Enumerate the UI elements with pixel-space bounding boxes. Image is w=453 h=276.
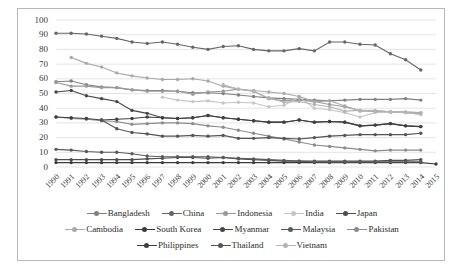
data-point bbox=[222, 126, 225, 129]
legend-label: Cambodia bbox=[86, 224, 123, 234]
data-point bbox=[313, 136, 316, 139]
data-point bbox=[176, 117, 179, 120]
y-tick-label: 50 bbox=[20, 89, 48, 98]
data-point bbox=[146, 76, 149, 79]
legend-label: Indonesia bbox=[237, 208, 272, 218]
data-point bbox=[85, 150, 88, 153]
legend-item-china[interactable]: China bbox=[162, 208, 205, 218]
data-point bbox=[161, 134, 164, 137]
data-point bbox=[267, 120, 270, 123]
data-point bbox=[70, 89, 73, 92]
data-point bbox=[374, 123, 377, 126]
legend-marker-icon bbox=[87, 209, 107, 218]
series-line bbox=[56, 117, 421, 151]
data-point bbox=[85, 161, 88, 164]
legend-item-bangladesh[interactable]: Bangladesh bbox=[87, 208, 150, 218]
legend-item-myanmar[interactable]: Myanmar bbox=[213, 224, 269, 234]
legend-item-philippines[interactable]: Philippines bbox=[137, 240, 199, 250]
data-point bbox=[191, 122, 194, 125]
legend-item-japan[interactable]: Japan bbox=[336, 208, 378, 218]
data-point bbox=[146, 112, 149, 115]
data-point bbox=[328, 99, 331, 102]
legend-marker-icon bbox=[284, 209, 304, 218]
data-point bbox=[191, 161, 194, 164]
data-point bbox=[54, 90, 57, 93]
data-point bbox=[130, 131, 133, 134]
data-point bbox=[328, 108, 331, 111]
data-point bbox=[70, 158, 73, 161]
data-point bbox=[267, 90, 270, 93]
legend-item-india[interactable]: India bbox=[284, 208, 324, 218]
data-point bbox=[404, 58, 407, 61]
data-point bbox=[343, 40, 346, 43]
data-point bbox=[115, 37, 118, 40]
legend-marker-icon bbox=[137, 241, 157, 250]
data-point bbox=[191, 116, 194, 119]
series-line bbox=[71, 57, 421, 112]
data-point bbox=[70, 116, 73, 119]
data-point bbox=[313, 160, 316, 163]
legend-item-pakistan[interactable]: Pakistan bbox=[347, 224, 399, 234]
data-point bbox=[206, 99, 209, 102]
data-point bbox=[252, 101, 255, 104]
data-point bbox=[237, 161, 240, 164]
legend-item-thailand[interactable]: Thailand bbox=[211, 240, 264, 250]
data-point bbox=[130, 161, 133, 164]
legend-item-cambodia[interactable]: Cambodia bbox=[65, 224, 123, 234]
data-point bbox=[313, 49, 316, 52]
data-point bbox=[298, 95, 301, 98]
data-point bbox=[282, 101, 285, 104]
data-point bbox=[161, 78, 164, 81]
data-point bbox=[191, 93, 194, 96]
legend-row: CambodiaSouth KoreaMyanmarMalaysiaPakist… bbox=[18, 221, 446, 237]
data-point bbox=[419, 112, 422, 115]
data-point bbox=[374, 149, 377, 152]
data-point bbox=[404, 133, 407, 136]
series-line bbox=[56, 82, 421, 114]
legend-label: Myanmar bbox=[234, 224, 269, 234]
y-tick-label: 70 bbox=[20, 60, 48, 69]
y-tick-label: 90 bbox=[20, 30, 48, 39]
data-point bbox=[389, 148, 392, 151]
data-point bbox=[176, 161, 179, 164]
data-point bbox=[100, 161, 103, 164]
data-point bbox=[237, 87, 240, 90]
legend-item-indonesia[interactable]: Indonesia bbox=[216, 208, 272, 218]
legend-marker-icon bbox=[213, 225, 233, 234]
chart-legend: BangladeshChinaIndonesiaIndiaJapanCambod… bbox=[18, 205, 446, 253]
legend-item-south-korea[interactable]: South Korea bbox=[135, 224, 201, 234]
data-point bbox=[389, 160, 392, 163]
data-point bbox=[343, 160, 346, 163]
data-point bbox=[176, 78, 179, 81]
legend-row: BangladeshChinaIndonesiaIndiaJapan bbox=[18, 205, 446, 221]
legend-marker-icon bbox=[162, 209, 182, 218]
data-point bbox=[100, 118, 103, 121]
data-point bbox=[191, 77, 194, 80]
legend-item-vietnam[interactable]: Vietnam bbox=[276, 240, 327, 250]
data-point bbox=[252, 161, 255, 164]
data-point bbox=[298, 47, 301, 50]
data-point bbox=[313, 120, 316, 123]
data-point bbox=[252, 119, 255, 122]
data-point bbox=[54, 115, 57, 118]
data-point bbox=[328, 105, 331, 108]
data-point bbox=[374, 98, 377, 101]
data-point bbox=[328, 160, 331, 163]
data-point bbox=[70, 32, 73, 35]
legend-marker-icon bbox=[135, 225, 155, 234]
data-point bbox=[100, 158, 103, 161]
data-point bbox=[54, 81, 57, 84]
data-point bbox=[130, 158, 133, 161]
data-point bbox=[70, 79, 73, 82]
data-point bbox=[54, 148, 57, 151]
data-point bbox=[222, 156, 225, 159]
data-point bbox=[328, 40, 331, 43]
legend-label: India bbox=[305, 208, 324, 218]
data-point bbox=[100, 97, 103, 100]
data-point bbox=[130, 40, 133, 43]
data-point bbox=[328, 120, 331, 123]
legend-item-malaysia[interactable]: Malaysia bbox=[281, 224, 335, 234]
y-tick-label: 100 bbox=[20, 16, 48, 25]
data-point bbox=[237, 44, 240, 47]
data-point bbox=[85, 158, 88, 161]
